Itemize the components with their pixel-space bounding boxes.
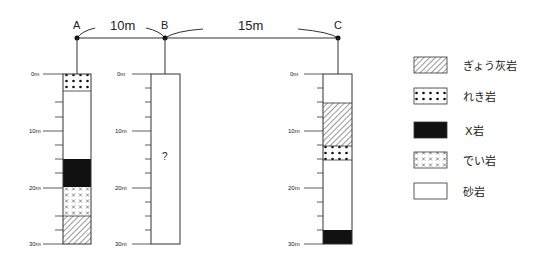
column-b: ? 0m 10m 20m 30m [115, 38, 180, 247]
unknown-mark: ? [162, 151, 168, 162]
legend-label-tuff: ぎょう灰岩 [463, 59, 517, 73]
depth-tick-a-0: 0m [31, 71, 39, 77]
point-a-label: A [73, 19, 81, 31]
depth-tick-a-20: 20m [29, 185, 41, 191]
depth-tick-b-20: 20m [115, 185, 127, 191]
legend-label-sandstone: 砂岩 [463, 185, 485, 199]
legend-swatch-x-rock [414, 122, 447, 138]
point-b-label: B [161, 19, 168, 31]
distance-bc-label: 15m [238, 18, 263, 33]
depth-tick-a-10: 10m [29, 128, 41, 134]
depth-tick-c-0: 0m [290, 71, 298, 77]
legend-swatch-conglomerate [414, 88, 447, 104]
legend: ぎょう灰岩 れき岩 X岩 でい岩 砂岩 [414, 57, 517, 199]
legend-label-conglomerate: れき岩 [463, 90, 496, 104]
depth-tick-a-30: 30m [29, 241, 41, 247]
legend-label-mudstone: でい岩 [463, 154, 496, 168]
legend-label-x-rock: X岩 [465, 124, 484, 138]
distance-ab-label: 10m [110, 18, 135, 33]
column-a: 0m 10m 20m 30m [29, 38, 91, 247]
point-c-label: C [334, 19, 342, 31]
depth-tick-b-30: 30m [115, 241, 127, 247]
geologic-column-diagram: 10m 15m A B C 0m 10m 20m 30m [0, 0, 550, 265]
depth-tick-b-10: 10m [115, 128, 127, 134]
legend-swatch-sandstone [414, 183, 447, 199]
depth-tick-c-30: 30m [288, 241, 300, 247]
column-c: 0m 10m 20m 30m [288, 38, 352, 247]
depth-tick-c-20: 20m [288, 185, 300, 191]
depth-tick-b-0: 0m [117, 71, 125, 77]
legend-swatch-mudstone [414, 152, 447, 168]
depth-tick-c-10: 10m [288, 128, 300, 134]
legend-swatch-tuff [414, 57, 447, 73]
